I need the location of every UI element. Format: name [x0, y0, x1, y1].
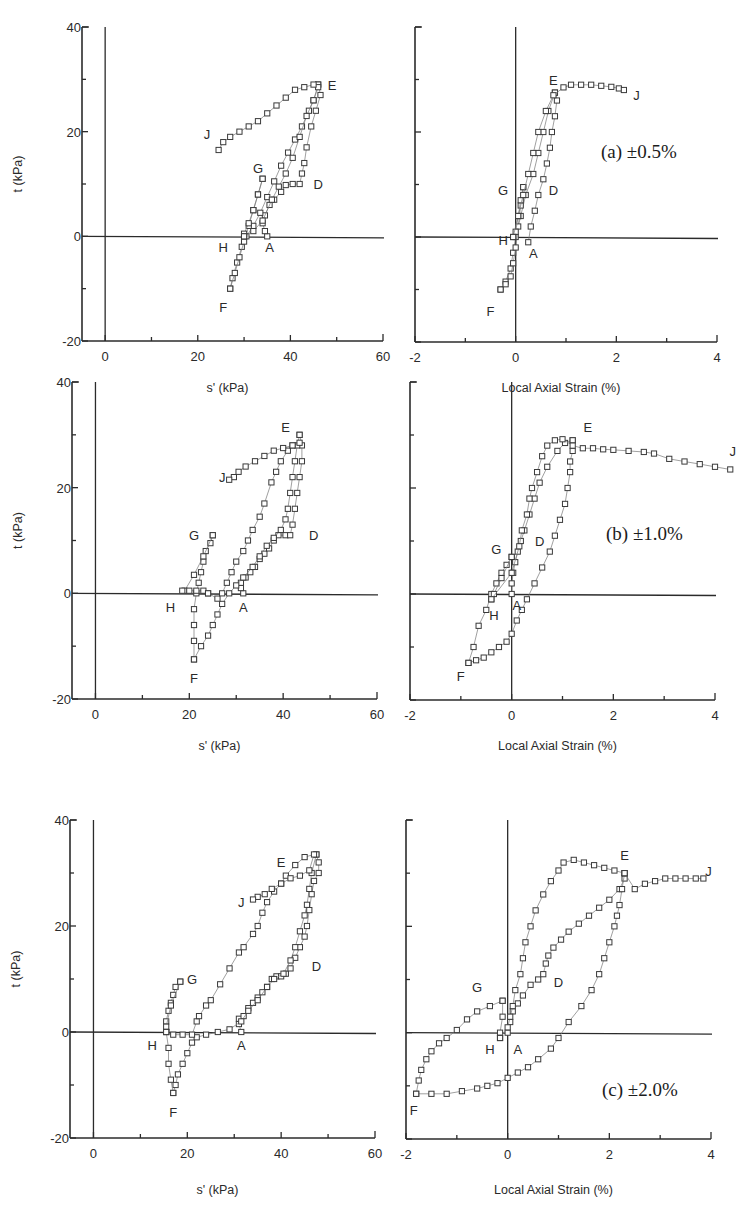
series-line: [501, 93, 555, 290]
point-label-a: A: [513, 1042, 522, 1057]
data-point: [505, 1030, 510, 1035]
data-point: [288, 966, 293, 971]
y-tick-label: 20: [57, 481, 71, 496]
data-point: [302, 85, 307, 90]
data-point: [241, 945, 246, 950]
data-point: [531, 171, 536, 176]
data-point: [571, 857, 576, 862]
data-point: [526, 171, 531, 176]
data-point: [304, 902, 309, 907]
data-point: [424, 1057, 429, 1062]
data-point: [532, 581, 537, 586]
data-point: [622, 876, 627, 881]
y-tick-label: 40: [67, 20, 81, 35]
point-label-f: F: [190, 671, 198, 686]
data-point: [196, 1014, 201, 1019]
point-label-e: E: [549, 73, 558, 88]
data-point: [528, 224, 533, 229]
data-point: [565, 485, 570, 490]
point-label-h: H: [498, 233, 507, 248]
data-point: [531, 150, 536, 155]
point-label-a: A: [265, 240, 274, 255]
data-point: [189, 1032, 194, 1037]
data-point: [297, 134, 302, 139]
point-label-g: G: [498, 183, 508, 198]
data-point: [297, 440, 302, 445]
data-point: [302, 855, 307, 860]
data-point: [487, 1003, 492, 1008]
data-point: [241, 548, 246, 553]
data-point: [295, 490, 300, 495]
data-point: [228, 134, 233, 139]
horizontal-zero-line: [70, 1032, 376, 1034]
data-point: [178, 979, 183, 984]
data-point: [651, 451, 656, 456]
data-point: [166, 1061, 171, 1066]
data-point: [589, 988, 594, 993]
y-tick-label: 0: [62, 1025, 69, 1040]
data-point: [682, 459, 687, 464]
data-point: [246, 124, 251, 129]
data-point: [552, 533, 557, 538]
data-point: [642, 881, 647, 886]
data-point: [292, 459, 297, 464]
data-point: [311, 98, 316, 103]
data-point: [269, 197, 274, 202]
data-point: [579, 82, 584, 87]
data-point: [290, 443, 295, 448]
data-point: [541, 177, 546, 182]
data-point: [180, 588, 185, 593]
x-tick-label: 4: [711, 708, 718, 723]
x-tick-label: 20: [180, 1146, 194, 1161]
data-point: [697, 462, 702, 467]
data-point: [290, 522, 295, 527]
data-point: [568, 459, 573, 464]
x-axis-title: Local Axial Strain (%): [498, 739, 617, 753]
data-point: [250, 931, 255, 936]
data-point: [607, 940, 612, 945]
data-point: [419, 1067, 424, 1072]
data-point: [485, 1083, 490, 1088]
panel-c-stress-path: 0204060-2002040s' (kPa)t (kPa)EJGDHAF: [9, 813, 382, 1197]
data-point: [429, 1049, 434, 1054]
point-label-e: E: [328, 78, 337, 93]
data-point: [224, 580, 229, 585]
data-point: [262, 229, 267, 234]
data-point: [258, 210, 263, 215]
y-tick-label: 20: [67, 125, 81, 140]
data-point: [215, 612, 220, 617]
series-line: [491, 439, 730, 599]
data-point: [597, 972, 602, 977]
data-point: [191, 657, 196, 662]
point-label-j: J: [238, 895, 245, 910]
data-point: [557, 517, 562, 522]
data-point: [489, 597, 494, 602]
data-point: [180, 1032, 185, 1037]
y-tick-label: 0: [74, 229, 81, 244]
data-point: [510, 1003, 515, 1008]
point-label-j: J: [730, 444, 737, 459]
x-tick-label: 20: [182, 707, 196, 722]
data-point: [281, 445, 286, 450]
point-label-a: A: [529, 246, 538, 261]
data-point: [220, 591, 225, 596]
x-tick-label: 60: [376, 349, 390, 364]
data-point: [652, 879, 657, 884]
data-point: [641, 449, 646, 454]
data-point: [576, 921, 581, 926]
data-point: [509, 591, 514, 596]
x-tick-label: 0: [508, 708, 515, 723]
data-point: [250, 897, 255, 902]
data-point: [541, 972, 546, 977]
x-axis-title: s' (kPa): [197, 1183, 239, 1197]
series-h-e-j: [489, 437, 733, 602]
panel-annotation: (b) ±1.0%: [606, 523, 683, 545]
data-point: [311, 82, 316, 87]
data-point: [511, 261, 516, 266]
x-tick-label: 40: [283, 349, 297, 364]
x-tick-label: 4: [707, 1147, 714, 1162]
data-point: [497, 1035, 502, 1040]
point-label-g: G: [491, 542, 501, 557]
data-point: [311, 878, 316, 883]
data-point: [515, 1001, 520, 1006]
